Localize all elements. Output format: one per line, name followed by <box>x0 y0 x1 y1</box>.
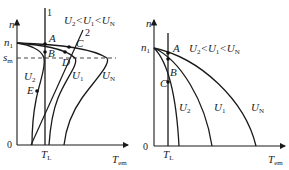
left-chart: n n1 sm 0 1 2 U2<U1<UN A B C D E U2 U1 U… <box>3 7 128 167</box>
label-e: E <box>26 84 34 96</box>
left-tl-label: TL <box>41 148 51 162</box>
line2-label: 2 <box>85 27 90 38</box>
left-y-label: n <box>9 18 15 30</box>
label-c: C <box>76 37 84 49</box>
right-u1-label: U1 <box>214 101 226 115</box>
right-y-label: n <box>146 17 152 29</box>
left-condition: U2<U1<UN <box>64 14 115 28</box>
line1-label: 1 <box>47 7 52 18</box>
right-x-label: Tem <box>268 153 283 167</box>
right-origin: 0 <box>143 141 148 152</box>
left-u1-label: U1 <box>72 69 84 83</box>
point-d <box>63 50 67 54</box>
right-condition: U2<U1<UN <box>189 42 240 56</box>
right-n1-label: n1 <box>141 41 151 55</box>
label-d: D <box>61 56 70 68</box>
left-origin: 0 <box>7 139 12 150</box>
left-un-label: UN <box>102 69 115 83</box>
point-e <box>35 89 39 93</box>
right-curve-un <box>154 48 256 146</box>
right-un-label: UN <box>251 101 264 115</box>
right-curve-u1 <box>154 48 212 146</box>
diagram-canvas: n n1 sm 0 1 2 U2<U1<UN A B C D E U2 U1 U… <box>0 0 289 170</box>
left-x-label: Tem <box>112 153 127 167</box>
point-b <box>43 50 47 54</box>
right-label-a: A <box>172 42 180 54</box>
label-b: B <box>48 47 55 59</box>
left-u2-label: U2 <box>24 70 36 84</box>
right-curve-u2 <box>154 48 179 146</box>
right-u2-label: U2 <box>179 101 191 115</box>
right-chart: n n1 0 U2<U1<UN A B C U2 U1 UN TL Tem <box>141 17 285 167</box>
point-c <box>67 45 71 49</box>
left-n1-label: n1 <box>4 36 14 50</box>
left-sm-label: sm <box>3 51 13 65</box>
point-a <box>43 42 47 46</box>
label-a: A <box>48 32 56 44</box>
right-point-b <box>166 57 170 61</box>
right-tl-label: TL <box>163 148 173 162</box>
right-label-b: B <box>170 66 177 78</box>
right-label-c: C <box>160 77 168 89</box>
right-point-a <box>166 51 170 55</box>
